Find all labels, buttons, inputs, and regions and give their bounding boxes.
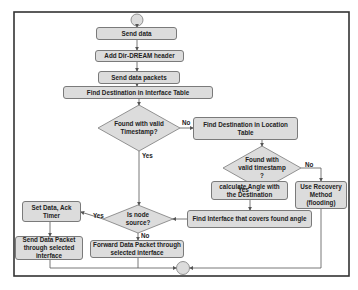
add-header-box: Add Dir-DREAM header bbox=[95, 50, 184, 62]
connectors bbox=[50, 26, 321, 268]
recovery-box: Use Recovery Method (flooding) bbox=[295, 181, 347, 209]
edge-label-d2-yes: Yes bbox=[238, 186, 249, 193]
edge-label-d1-yes: Yes bbox=[142, 152, 153, 159]
find-covering-interface-box: Find Interface that covers found angle bbox=[187, 210, 312, 228]
edge-label-d1-no: No bbox=[182, 119, 190, 126]
set-ack-box: Set Data, Ack Timer bbox=[22, 201, 81, 222]
forward-selected-box: Forward Data Packet through selected int… bbox=[90, 240, 184, 258]
end-node bbox=[177, 262, 190, 275]
find-interface-table-box: Find Destination in Interface Table bbox=[63, 86, 213, 99]
edge-label-d3-yes: Yes bbox=[93, 212, 104, 219]
send-packets-box: Send data packets bbox=[98, 71, 180, 84]
edge-label-d3-no: No bbox=[141, 232, 149, 239]
decision-is-node-source-label: Is node source? bbox=[118, 211, 158, 227]
send-data-box: Send data bbox=[96, 27, 177, 40]
decision-valid-timestamp-2-label: Found with valid timestamp ? bbox=[238, 150, 286, 186]
send-selected-box: Send Data Packet through selected interf… bbox=[15, 236, 83, 260]
find-location-table-box: Find Destination in Location Table bbox=[193, 117, 298, 140]
start-node bbox=[131, 14, 143, 26]
edge-label-d2-no: No bbox=[305, 161, 313, 168]
decision-valid-timestamp-label: Found with valid Timestamp? bbox=[112, 112, 166, 144]
